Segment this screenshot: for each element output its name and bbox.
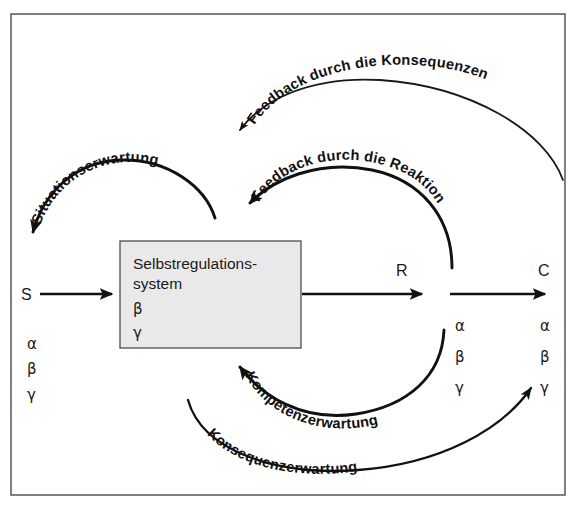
c-greek-beta: β — [540, 348, 550, 366]
box-line-2: system — [133, 275, 182, 292]
c-greek-gamma: γ — [540, 379, 549, 397]
s-greek-beta: β — [27, 360, 37, 378]
node-label-s: S — [21, 286, 32, 303]
box-line-1: Selbstregulations- — [133, 255, 257, 272]
s-greek-alpha: α — [27, 335, 37, 353]
s-greek-gamma: γ — [27, 386, 36, 404]
c-greek-alpha: α — [540, 317, 550, 335]
r-greek-alpha: α — [455, 317, 465, 335]
r-greek-gamma: γ — [455, 379, 464, 397]
diagram-root: Selbstregulations- system β γ S α β γ R … — [0, 0, 580, 512]
node-label-c: C — [538, 262, 550, 279]
box-greek-gamma: γ — [133, 324, 142, 342]
diagram-canvas: Selbstregulations- system β γ S α β γ R … — [0, 0, 580, 512]
box-greek-beta: β — [133, 300, 143, 318]
r-greek-beta: β — [455, 348, 465, 366]
node-label-r: R — [396, 262, 408, 279]
